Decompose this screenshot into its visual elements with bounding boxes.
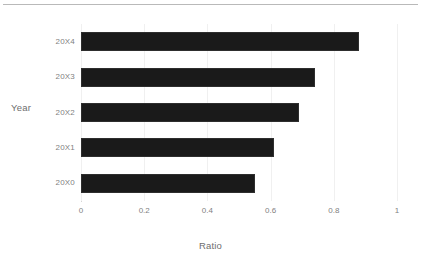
bar-row	[81, 130, 397, 165]
x-tick-label-0.4: 0.4	[187, 206, 227, 215]
bar-20X3[interactable]	[81, 68, 315, 87]
gridline-x-5	[397, 24, 398, 201]
y-tick-label-20X0: 20X0	[39, 178, 75, 187]
y-axis-title: Year	[11, 102, 31, 113]
x-tick-label-0.6: 0.6	[251, 206, 291, 215]
x-tick-label-0: 0	[61, 206, 101, 215]
header-divider	[3, 4, 418, 5]
bar-20X1[interactable]	[81, 138, 274, 157]
y-tick-label-20X3: 20X3	[39, 72, 75, 81]
bar-row	[81, 166, 397, 201]
x-axis-title: Ratio	[0, 240, 421, 251]
bar-row	[81, 24, 397, 59]
bar-20X2[interactable]	[81, 103, 299, 122]
y-tick-label-20X2: 20X2	[39, 108, 75, 117]
x-tick-label-0.8: 0.8	[314, 206, 354, 215]
y-tick-label-20X1: 20X1	[39, 143, 75, 152]
bar-row	[81, 95, 397, 130]
x-tick-label-1: 1	[377, 206, 417, 215]
plot-area	[81, 24, 397, 201]
bar-chart: Year Ratio 00.20.40.60.81 20X420X320X220…	[0, 0, 421, 264]
bar-row	[81, 59, 397, 94]
y-tick-label-20X4: 20X4	[39, 37, 75, 46]
x-tick-label-0.2: 0.2	[124, 206, 164, 215]
bar-20X4[interactable]	[81, 32, 359, 51]
bar-20X0[interactable]	[81, 174, 255, 193]
